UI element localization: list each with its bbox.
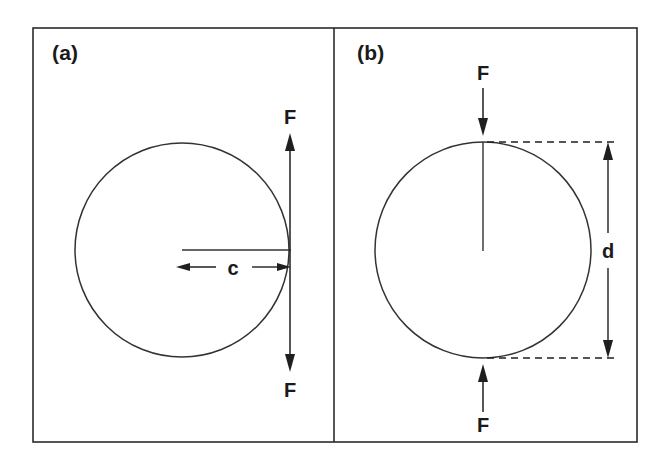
panel-b-dimension-d: d: [602, 142, 614, 358]
force-top-a-label: F: [284, 106, 296, 128]
force-top-b-label: F: [477, 62, 489, 84]
panel-b: (b) d F: [357, 41, 616, 436]
panel-a: (a) c F F: [52, 41, 296, 401]
panel-a-force-top: F: [284, 106, 296, 250]
panel-a-label: (a): [52, 41, 78, 64]
figure-frame: [33, 28, 637, 442]
panel-a-force-bottom: F: [284, 250, 296, 401]
force-bottom-a-arrowhead: [285, 354, 295, 372]
figure-canvas: (a) c F F: [0, 0, 666, 463]
dimension-d-label: d: [602, 240, 614, 262]
force-bottom-a-label: F: [284, 379, 296, 401]
figure-container: (a) c F F: [0, 0, 666, 463]
dimension-d-top-arrowhead: [603, 142, 613, 160]
dimension-c-label: c: [227, 257, 238, 279]
force-top-a-arrowhead: [285, 133, 295, 151]
panel-a-dimension-c: c: [176, 257, 291, 279]
panel-b-force-top: F: [477, 62, 489, 136]
dimension-c-right-arrowhead: [277, 263, 291, 271]
dimension-c-left-arrowhead: [176, 263, 190, 271]
force-top-b-arrowhead: [478, 118, 488, 136]
force-bottom-b-label: F: [477, 414, 489, 436]
panel-b-force-bottom: F: [477, 364, 489, 436]
dimension-d-bottom-arrowhead: [603, 340, 613, 358]
force-bottom-b-arrowhead: [478, 364, 488, 382]
panel-b-label: (b): [357, 41, 384, 64]
